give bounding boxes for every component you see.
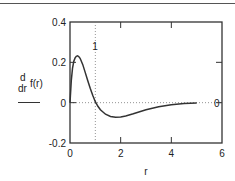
series-line [70,56,197,117]
x-axis-label: r [144,166,148,177]
y-tick-label: 0 [60,98,66,109]
x-tick-label: 0 [67,148,73,159]
x-tick-label: 4 [169,148,175,159]
y-tick-label: 0.2 [52,57,66,68]
x-tick-label: 2 [118,148,124,159]
marker-vertical-label: 1 [92,41,98,52]
x-tick-label: 6 [219,148,225,159]
y-tick-label: 0.4 [52,17,66,28]
chart: 1 0 0246 -0.200.20.4 r [0,0,235,181]
y-tick-label: -0.2 [49,138,67,149]
